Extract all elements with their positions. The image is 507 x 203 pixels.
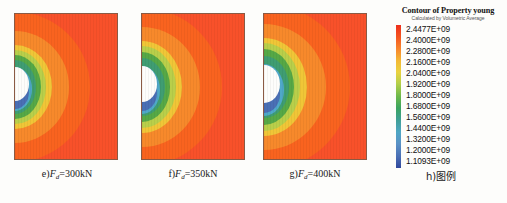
legend-value: 1.9200E+09 bbox=[406, 79, 450, 90]
contour-field-e bbox=[15, 14, 117, 159]
caption-value: =400kN bbox=[308, 168, 341, 179]
legend-value: 2.4477E+09 bbox=[406, 24, 450, 35]
legend-value: 1.2000E+09 bbox=[406, 145, 450, 156]
legend-value-list: 2.4477E+09 2.4000E+09 2.2800E+09 2.1600E… bbox=[406, 24, 450, 167]
legend-value: 1.8000E+09 bbox=[406, 90, 450, 101]
contour-field-f bbox=[142, 14, 244, 159]
legend-caption: h)图例 bbox=[366, 168, 507, 183]
legend-value: 2.0400E+09 bbox=[406, 68, 450, 79]
legend-colorbar bbox=[396, 25, 401, 168]
legend-subtitle: Calculated by Volumetric Average bbox=[394, 15, 502, 22]
legend-value: 1.3200E+09 bbox=[406, 134, 450, 145]
legend-value: 2.2800E+09 bbox=[406, 46, 450, 57]
legend-value: 1.1093E+09 bbox=[406, 156, 450, 167]
legend-value: 1.4400E+09 bbox=[406, 123, 450, 134]
caption-value: =350kN bbox=[185, 168, 218, 179]
contour-panel-e[interactable] bbox=[14, 13, 118, 160]
legend-value: 1.5600E+09 bbox=[406, 112, 450, 123]
caption-prefix: g) bbox=[290, 168, 298, 179]
contour-panel-g[interactable] bbox=[263, 13, 367, 160]
legend-title: Contour of Property young bbox=[392, 6, 504, 15]
legend-value: 1.6800E+09 bbox=[406, 101, 450, 112]
contour-panel-f[interactable] bbox=[141, 13, 245, 160]
contour-field-g bbox=[264, 14, 366, 159]
legend-value: 2.4000E+09 bbox=[406, 35, 450, 46]
caption-prefix: e) bbox=[42, 168, 50, 179]
contour-legend: Contour of Property young Calculated by … bbox=[392, 6, 504, 166]
legend-body: 2.4477E+09 2.4000E+09 2.2800E+09 2.1600E… bbox=[396, 24, 450, 168]
legend-value: 2.1600E+09 bbox=[406, 57, 450, 68]
caption-value: =300kN bbox=[59, 168, 92, 179]
contour-figure: Contour of Property young Calculated by … bbox=[0, 0, 507, 203]
